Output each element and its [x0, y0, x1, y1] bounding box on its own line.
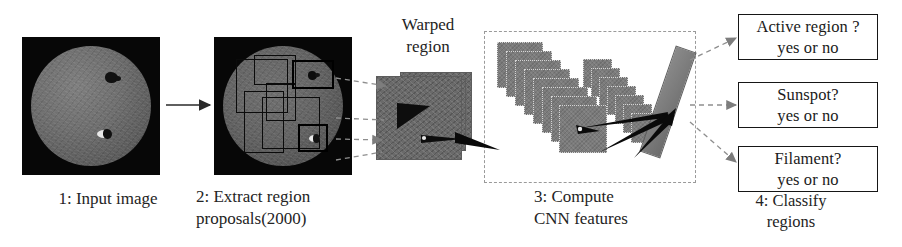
caption-step-4: 4: Classify regions	[716, 190, 866, 232]
classifier-answer: yes or no	[739, 169, 877, 190]
proposal-rect	[254, 55, 296, 85]
warped-card-front	[376, 76, 462, 160]
proposal-rect-sunspot	[292, 60, 334, 89]
solar-granulation-texture	[31, 46, 151, 166]
warped-region-stack	[376, 72, 480, 176]
classifier-answer: yes or no	[739, 37, 877, 58]
filament-dark-feature	[313, 134, 320, 143]
caption-step-2: 2: Extract region proposals(2000)	[196, 186, 372, 229]
warped-region-label: Warped region	[372, 14, 484, 58]
cnn-feature-panel	[484, 31, 696, 183]
fully-connected-layer	[639, 45, 696, 158]
sunspot-feature-small	[315, 73, 320, 77]
solar-disk	[31, 46, 151, 166]
classifier-box-active-region[interactable]: Active region ? yes or no	[738, 14, 878, 60]
pipeline-figure: 1: Input image 2: Extract region proposa…	[0, 0, 902, 247]
classifier-answer: yes or no	[739, 105, 877, 126]
region-proposal-image	[214, 37, 352, 175]
caption-step-3: 3: Compute CNN features	[534, 186, 704, 229]
proposal-rect-filament	[298, 124, 328, 152]
dashed-connector-to-filament	[690, 122, 736, 162]
feature-map-front	[559, 105, 607, 153]
filament-dark-feature	[103, 129, 112, 139]
classifier-question: Sunspot?	[739, 84, 877, 105]
classifier-question: Active region ?	[739, 16, 877, 37]
caption-step-1: 1: Input image	[28, 188, 188, 210]
warped-region-markings	[377, 77, 463, 161]
classifier-box-filament[interactable]: Filament? yes or no	[738, 146, 878, 192]
input-solar-image	[22, 37, 160, 175]
dashed-connector-to-active-region	[690, 38, 736, 60]
classifier-box-sunspot[interactable]: Sunspot? yes or no	[738, 82, 878, 128]
classifier-question: Filament?	[739, 148, 877, 169]
sunspot-feature-small	[115, 76, 121, 81]
